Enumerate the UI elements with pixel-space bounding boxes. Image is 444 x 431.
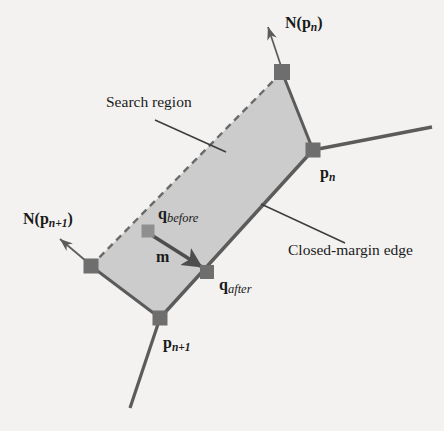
label-q-after-sub: after bbox=[228, 282, 252, 296]
node-left bbox=[84, 259, 99, 274]
label-normal-pn: N(pn) bbox=[285, 14, 323, 33]
label-normal-pn1-close: ) bbox=[67, 210, 72, 228]
label-vector-m: m bbox=[156, 248, 170, 265]
label-q-after-main: q bbox=[219, 276, 228, 294]
label-normal-pn-close: ) bbox=[317, 14, 322, 32]
label-normal-pn1-main: N(p bbox=[23, 210, 49, 228]
label-closed-margin-edge: Closed-margin edge bbox=[288, 241, 413, 258]
node-pn bbox=[306, 143, 321, 158]
label-normal-pn-main: N(p bbox=[285, 14, 311, 32]
node-pn1 bbox=[153, 311, 168, 326]
figure-canvas: Search region Closed-margin edge N(pn) N… bbox=[0, 0, 444, 431]
node-top bbox=[274, 64, 290, 80]
label-q-before-main: q bbox=[158, 205, 167, 223]
label-q-before-sub: before bbox=[167, 211, 199, 225]
node-q-before bbox=[142, 225, 155, 238]
node-q-after bbox=[200, 265, 214, 279]
label-point-pn-main: p bbox=[320, 164, 329, 182]
label-point-pn-sub: n bbox=[329, 171, 335, 183]
label-normal-pn1-sub: n+1 bbox=[49, 217, 68, 229]
label-point-pn1-main: p bbox=[163, 334, 172, 352]
label-point-pn1-sub: n+1 bbox=[172, 341, 191, 353]
label-search-region: Search region bbox=[106, 93, 192, 110]
